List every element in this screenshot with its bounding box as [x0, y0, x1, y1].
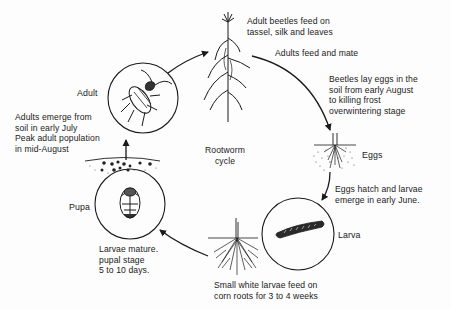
root-feeding-annotation: Small white larvae feed on corn roots fo…	[214, 280, 318, 301]
pupa-icon	[120, 188, 140, 218]
arrow-adult-to-corn	[168, 52, 208, 73]
emergence-annotation: Adults emerge from soil in early July Pe…	[15, 112, 100, 154]
corn-plant-icon	[204, 12, 250, 122]
stage-label-adult: Adult	[77, 88, 98, 99]
pupa-stage	[95, 169, 165, 239]
larva-stage	[262, 198, 334, 270]
feed-mate-annotation: Adults feed and mate	[275, 48, 358, 59]
arrow-corn-to-eggs	[252, 56, 330, 130]
arrow-roots-to-pupa	[160, 230, 208, 256]
stage-label-larva: Larva	[338, 230, 361, 241]
stage-label-eggs: Eggs	[362, 150, 382, 161]
center-cycle-label: Rootworm cycle	[205, 145, 245, 166]
corn-feeding-annotation: Adult beetles feed on tassel, silk and l…	[247, 16, 333, 37]
beetle-icon	[121, 70, 172, 126]
eggs-in-soil-icon	[313, 133, 356, 171]
pupation-annotation: Larvae mature. pupal stage 5 to 10 days.	[99, 244, 158, 276]
hatch-annotation: Eggs hatch and larvae emerge in early Ju…	[335, 184, 423, 205]
stage-label-pupa: Pupa	[69, 202, 90, 213]
larva-icon	[276, 221, 324, 238]
adult-stage	[108, 63, 178, 133]
arrow-eggs-to-larva	[322, 172, 330, 200]
lay-eggs-annotation: Beetles lay eggs in the soil from early …	[329, 74, 418, 116]
corn-roots-icon	[208, 218, 258, 275]
soil-eggs-icon	[85, 158, 160, 174]
